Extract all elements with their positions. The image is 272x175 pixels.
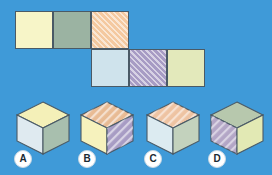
- answer-option-a[interactable]: A: [12, 98, 74, 175]
- option-label-d: D: [208, 150, 226, 168]
- net-cell-3: [91, 11, 129, 49]
- net-cell-1: [15, 11, 53, 49]
- net-cell-4: [91, 49, 129, 87]
- diagonal-hatch-pattern: [92, 12, 128, 48]
- net-cell-2: [53, 11, 91, 49]
- answer-option-d[interactable]: D: [206, 98, 268, 175]
- puzzle-canvas: A B: [0, 0, 272, 175]
- net-cell-6: [167, 49, 205, 87]
- option-label-a: A: [14, 150, 32, 168]
- diagonal-hatch-pattern: [130, 50, 166, 86]
- cube-net-diagram: [15, 11, 209, 88]
- answer-option-c[interactable]: C: [142, 98, 204, 175]
- answer-option-b[interactable]: B: [76, 98, 138, 175]
- net-cell-5: [129, 49, 167, 87]
- option-label-b: B: [78, 150, 96, 168]
- option-label-c: C: [144, 150, 162, 168]
